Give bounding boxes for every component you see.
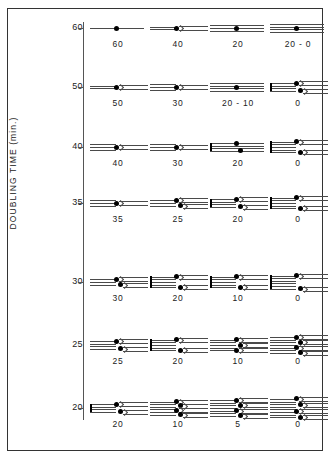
daughter-strand [303,93,328,94]
terminus-bar [270,141,272,152]
daughter-strand [239,275,268,276]
chromosome-strand [150,348,176,349]
terminus-bar [150,339,152,350]
y-tick-mark [78,203,84,204]
chromosome-strand [270,88,296,89]
chromosome-strand [90,88,116,89]
daughter-strand [243,209,268,210]
daughter-strand [239,201,268,202]
chromosome-strand [270,415,296,416]
daughter-strand [299,196,328,197]
diagram-cell: 20 [208,194,268,228]
chromosome-strand [270,283,296,284]
chromosome-strand [270,278,296,279]
replication-fork [114,26,119,31]
terminus-bar [210,276,212,287]
cell-label: 35 [88,214,148,224]
daughter-strand [179,338,208,339]
diagram-cell: 20 [148,336,208,370]
replication-fork [238,148,243,153]
cell-label: 30 [148,98,208,108]
chromosome-strand [90,404,116,405]
cell-label: 0 [268,214,328,224]
chromosome-strand [90,412,116,413]
replication-diagram [270,19,328,37]
chromosome-strand [270,203,296,204]
chromosome-strand [270,402,296,403]
daughter-strand [123,351,148,352]
diagram-row-25: 2520100 [88,336,328,370]
chromosome-strand [210,405,236,406]
diagram-cell: 20 - 0 [268,19,328,53]
chromosome-strand [90,279,116,280]
cell-label: 0 [268,356,328,366]
y-tick-20: 20 [0,408,83,409]
replication-diagram [210,194,268,212]
chromosome-strand [90,150,116,151]
chromosome-strand [210,83,264,84]
diagram-row-35: 3525200 [88,194,328,228]
chromosome-strand [210,348,236,349]
y-axis-line [83,22,84,420]
chromosome-strand [210,285,236,286]
daughter-strand [303,210,328,211]
chromosome-strand [150,206,176,207]
diagram-cell: 0 [268,78,328,112]
cell-label: 0 [268,293,328,303]
daughter-strand [299,274,328,275]
daughter-strand [179,149,208,150]
chromosome-strand [270,198,296,199]
chromosome-strand [150,287,176,288]
replication-diagram [150,399,208,417]
chromosome-strand [270,281,296,282]
diagram-cell: 0 [268,138,328,172]
cell-label: 10 [208,356,268,366]
replication-diagram [270,78,328,96]
chromosome-strand [150,84,176,85]
chromosome-strand [90,203,116,204]
chromosome-strand [150,345,176,346]
diagram-cell: 35 [88,194,148,228]
chromosome-strand [210,413,236,414]
replication-diagram [270,194,328,212]
cell-label: 20 [88,419,148,429]
chromosome-strand [90,409,116,410]
chromosome-strand [210,416,236,417]
chromosome-strand [270,150,296,151]
replication-diagram [90,78,148,96]
y-tick-label: 25 [57,340,83,349]
chromosome-strand [270,342,296,343]
daughter-strand [239,279,268,280]
chromosome-strand [150,282,176,283]
chromosome-strand [210,202,236,203]
cell-label: 40 [148,39,208,49]
chromosome-strand [150,29,176,30]
y-axis-title: DOUBLING TIME (min.) [8,88,18,258]
y-tick-mark [78,408,84,409]
cell-label: 25 [148,214,208,224]
daughter-strand [179,279,208,280]
diagram-cell: 20 [148,273,208,307]
daughter-strand [179,89,208,90]
daughter-strand [299,200,328,201]
chromosome-strand [210,282,236,283]
chromosome-strand [150,147,176,148]
chromosome-strand [90,86,116,87]
diagram-cell: 0 [268,399,328,433]
chromosome-strand [90,282,116,283]
chromosome-strand [270,404,296,405]
chromosome-strand [210,350,236,351]
chromosome-strand [210,400,236,401]
daughter-strand [303,407,328,408]
chromosome-strand [210,31,264,32]
diagram-cell: 40 [148,19,208,53]
chromosome-strand [210,403,236,404]
diagram-cell: 0 [268,336,328,370]
replication-diagram [150,78,208,96]
y-tick-mark [78,282,84,283]
diagram-cell: 30 [88,273,148,307]
replication-diagram [90,273,148,291]
y-tick-50: 50 [0,87,83,88]
chromosome-strand [270,345,296,346]
replication-diagram [270,336,328,354]
